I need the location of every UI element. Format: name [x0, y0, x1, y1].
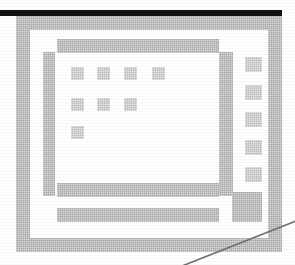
diagonal-pointer-line	[0, 0, 295, 265]
icon-canvas	[0, 0, 295, 265]
